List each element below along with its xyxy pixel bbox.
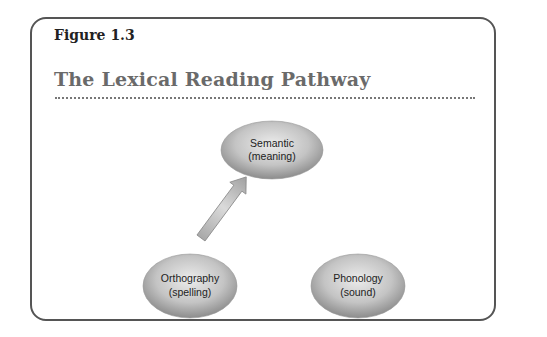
node-phonology-label: Phonology [333, 272, 383, 284]
node-semantic-sublabel: (meaning) [248, 150, 295, 162]
node-semantic: Semantic (meaning) [221, 121, 323, 179]
node-semantic-label: Semantic [250, 137, 294, 149]
node-phonology-sublabel: (sound) [340, 286, 376, 298]
node-orthography-label: Orthography [161, 272, 220, 284]
node-orthography-sublabel: (spelling) [169, 286, 212, 298]
node-orthography: Orthography (spelling) [143, 254, 237, 318]
node-phonology: Phonology (sound) [311, 254, 405, 318]
arrow-orthography-to-semantic [193, 171, 254, 244]
diagram-canvas: Semantic (meaning) Orthography (spelling… [0, 0, 547, 337]
